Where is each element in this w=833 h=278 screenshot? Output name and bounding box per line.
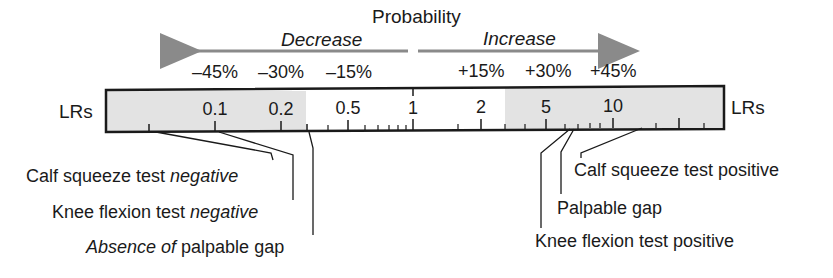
- callout-text-italic: negative: [170, 166, 238, 186]
- probability-title: Probability: [372, 6, 461, 28]
- decrease-label: Decrease: [281, 29, 362, 51]
- callout-absence-palpable-gap: Absence of palpable gap: [86, 237, 284, 258]
- percent-label: +45%: [590, 61, 637, 82]
- callout-calf-squeeze-positive: Calf squeeze test positive: [574, 160, 779, 181]
- callout-text-italic: negative: [190, 202, 258, 222]
- lr-tick-label: 0.2: [268, 99, 293, 120]
- callout-text: Knee flexion test: [52, 202, 190, 222]
- callout-knee-flexion-negative: Knee flexion test negative: [52, 202, 258, 223]
- callout-palpable-gap: Palpable gap: [557, 198, 662, 219]
- callout-knee-flexion-positive: Knee flexion test positive: [535, 231, 734, 252]
- percent-label: –30%: [258, 62, 304, 83]
- percent-label: –45%: [192, 62, 238, 83]
- percent-label: +15%: [458, 61, 505, 82]
- callout-text: palpable gap: [176, 237, 284, 257]
- lr-tick-label: 0.1: [202, 99, 227, 120]
- increase-label: Increase: [483, 28, 556, 50]
- lr-tick-label: 1: [408, 98, 418, 119]
- percent-label: +30%: [525, 61, 572, 82]
- lr-tick-label: 2: [476, 97, 486, 118]
- callout-calf-squeeze-negative: Calf squeeze test negative: [26, 166, 238, 187]
- callout-text-italic: Absence of: [86, 237, 176, 257]
- lr-tick-label: 5: [541, 97, 551, 118]
- callout-text: Calf squeeze test: [26, 166, 170, 186]
- lrs-axis-label-right: LRs: [731, 97, 765, 119]
- percent-label: –15%: [326, 62, 372, 83]
- lrs-axis-label-left: LRs: [59, 101, 93, 123]
- lr-tick-label: 0.5: [335, 98, 360, 119]
- lr-tick-label: 10: [603, 96, 623, 117]
